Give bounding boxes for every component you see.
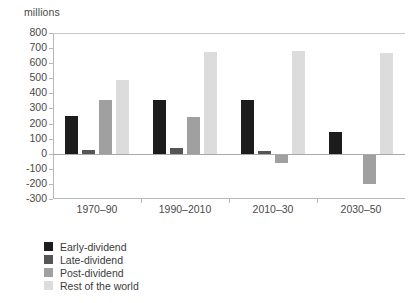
bar <box>153 100 166 154</box>
y-axis-tick-label: -300 <box>26 192 47 204</box>
bar <box>187 117 200 154</box>
bar <box>329 132 342 154</box>
gridline-top <box>53 33 405 34</box>
bar <box>292 51 305 154</box>
bar <box>275 154 288 163</box>
y-axis-tick-mark <box>49 93 53 94</box>
legend-label: Post-dividend <box>60 267 124 279</box>
legend-item: Early-dividend <box>44 240 139 253</box>
legend-label: Early-dividend <box>60 241 127 253</box>
bar <box>116 80 129 154</box>
x-axis-label: 2030–50 <box>317 203 405 215</box>
y-axis-tick-mark <box>49 139 53 140</box>
x-axis-label: 1990–2010 <box>141 203 229 215</box>
y-axis-tick-label: 700 <box>29 41 47 53</box>
y-axis-tick-label: 400 <box>29 86 47 98</box>
y-axis-tick-label: 800 <box>29 26 47 38</box>
plot-area: 8007006005004003002001000-100-200-300 <box>53 33 405 199</box>
bar <box>241 100 254 154</box>
bar <box>363 154 376 184</box>
bar <box>99 100 112 154</box>
y-axis-tick-mark <box>49 108 53 109</box>
legend-swatch <box>44 281 53 290</box>
chart-legend: Early-dividendLate-dividendPost-dividend… <box>44 240 139 292</box>
legend-swatch <box>44 255 53 264</box>
bar-chart: millions 8007006005004003002001000-100-2… <box>0 0 416 303</box>
y-axis-tick-mark <box>49 48 53 49</box>
y-axis-tick-mark <box>49 124 53 125</box>
y-axis-tick-label: -200 <box>26 177 47 189</box>
y-axis-tick-mark <box>49 199 53 200</box>
y-axis-tick-mark <box>49 169 53 170</box>
y-axis-tick-label: 100 <box>29 132 47 144</box>
y-axis-tick-label: 200 <box>29 117 47 129</box>
y-axis-tick-mark <box>49 184 53 185</box>
y-axis-tick-label: 600 <box>29 56 47 68</box>
y-axis-tick-mark <box>49 63 53 64</box>
y-axis-tick-label: 500 <box>29 71 47 83</box>
y-axis-tick-label: 0 <box>41 147 47 159</box>
x-axis-label: 1970–90 <box>53 203 141 215</box>
x-axis-labels: 1970–901990–20102010–302030–50 <box>53 203 405 219</box>
legend-item: Rest of the world <box>44 279 139 292</box>
bar <box>65 116 78 154</box>
legend-swatch <box>44 268 53 277</box>
x-axis-label: 2010–30 <box>229 203 317 215</box>
legend-swatch <box>44 242 53 251</box>
bar <box>204 52 217 154</box>
zero-baseline <box>53 154 405 155</box>
y-axis-unit-label: millions <box>24 6 60 18</box>
bar <box>380 53 393 153</box>
legend-item: Late-dividend <box>44 253 139 266</box>
y-axis-tick-mark <box>49 78 53 79</box>
legend-label: Rest of the world <box>60 280 139 292</box>
legend-item: Post-dividend <box>44 266 139 279</box>
bars-layer <box>53 33 405 199</box>
legend-label: Late-dividend <box>60 254 123 266</box>
y-axis-tick-label: 300 <box>29 101 47 113</box>
y-axis-tick-label: -100 <box>26 162 47 174</box>
